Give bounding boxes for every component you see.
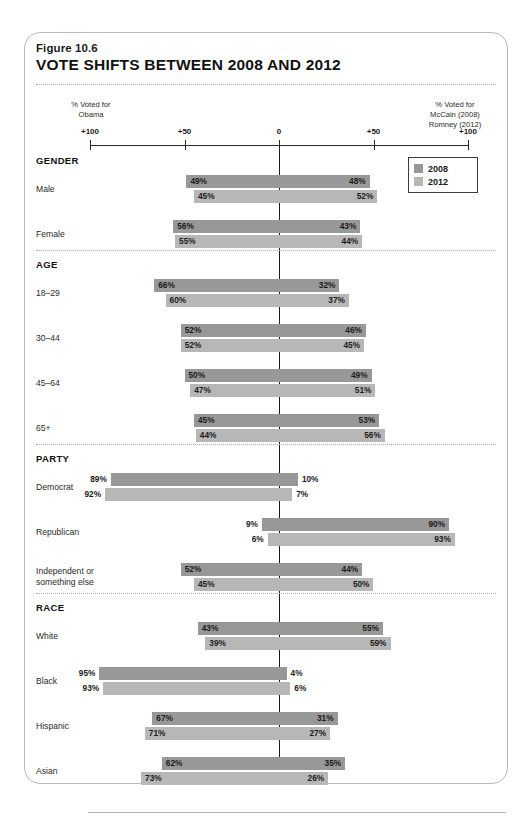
axis-tick-label: +100 — [448, 127, 488, 136]
bar-value-left: 55% — [179, 235, 196, 248]
axis-caption-left-line2: Obama — [48, 110, 134, 120]
bar-value-right: 48% — [349, 175, 366, 188]
bar-value-right: 46% — [345, 324, 362, 337]
bar-value-right: 45% — [343, 339, 360, 352]
group-separator — [36, 250, 496, 251]
bar-2008: 89%10% — [111, 473, 298, 486]
figure-page: Figure 10.6 VOTE SHIFTS BETWEEN 2008 AND… — [0, 0, 530, 826]
bar-value-left: 50% — [189, 369, 206, 382]
bar-2012: 45%52% — [194, 190, 377, 203]
bar-2012: 52%45% — [181, 339, 364, 352]
category-label: White — [36, 631, 156, 642]
legend-item-label: 2012 — [428, 177, 448, 187]
bar-2008: 62%35% — [162, 757, 345, 770]
bar-2012: 45%50% — [194, 578, 374, 591]
bar-2008: 95%4% — [99, 667, 286, 680]
axis-tick — [185, 140, 186, 150]
group-separator — [36, 444, 496, 445]
bar-value-right: 27% — [309, 727, 326, 740]
group-separator — [36, 593, 496, 594]
figure-number: Figure 10.6 — [36, 42, 98, 54]
bar-value-right: 10% — [302, 473, 319, 486]
group-title: AGE — [36, 259, 58, 270]
bar-2008: 52%44% — [181, 563, 362, 576]
group-title: PARTY — [36, 453, 69, 464]
bar-value-right: 51% — [355, 384, 372, 397]
category-label-line2: something else — [36, 577, 156, 588]
bar-value-right: 44% — [342, 563, 359, 576]
bar-value-left: 56% — [177, 220, 194, 233]
category-label: 45–64 — [36, 378, 156, 389]
bar-value-right: 26% — [308, 772, 325, 785]
bar-value-right: 6% — [294, 682, 306, 695]
bar-value-right: 56% — [364, 429, 381, 442]
axis-tick-label: 0 — [259, 127, 299, 136]
bar-2008: 67%31% — [152, 712, 337, 725]
category-label: Female — [36, 229, 156, 240]
bar-value-left: 52% — [185, 339, 202, 352]
category-label: Asian — [36, 766, 156, 777]
bar-2012: 6%93% — [268, 533, 455, 546]
bar-2008: 43%55% — [198, 622, 383, 635]
bar-2008: 49%48% — [186, 175, 369, 188]
bar-value-left: 39% — [209, 637, 226, 650]
bar-value-left: 47% — [194, 384, 211, 397]
legend: 20082012 — [408, 157, 478, 193]
bar-2012: 92%7% — [105, 488, 292, 501]
category-label-line1: Independent or — [36, 566, 156, 577]
bar-value-left: 43% — [202, 622, 219, 635]
category-label: 30–44 — [36, 333, 156, 344]
legend-item: 2012 — [414, 175, 472, 188]
bar-value-left: 52% — [185, 563, 202, 576]
bottom-rule — [88, 812, 506, 813]
category-label: 65+ — [36, 423, 156, 434]
bar-value-right: 49% — [351, 369, 368, 382]
bar-value-right: 55% — [362, 622, 379, 635]
bar-2012: 93%6% — [103, 682, 290, 695]
category-label: Male — [36, 184, 156, 195]
axis-caption-right-line2: McCain (2008) — [412, 110, 498, 120]
category-label: Hispanic — [36, 721, 156, 732]
category-label: Independent orsomething else — [36, 566, 156, 587]
bar-value-right: 7% — [296, 488, 308, 501]
bar-value-right: 31% — [317, 712, 334, 725]
axis-caption-right-line1: % Voted for — [412, 100, 498, 110]
bar-value-left: 62% — [166, 757, 183, 770]
bar-value-right: 43% — [340, 220, 357, 233]
bar-2008: 9%90% — [262, 518, 449, 531]
bar-value-left: 71% — [149, 727, 166, 740]
bar-value-left: 44% — [200, 429, 217, 442]
bar-value-right: 4% — [291, 667, 303, 680]
category-label: Republican — [36, 527, 156, 538]
legend-item-label: 2008 — [428, 164, 448, 174]
title-separator — [36, 84, 496, 85]
category-label: 18–29 — [36, 288, 156, 299]
bar-value-left: 9% — [246, 518, 258, 531]
legend-swatch-icon — [414, 177, 423, 186]
axis-tick — [468, 140, 469, 150]
legend-swatch-icon — [414, 164, 423, 173]
bar-2012: 44%56% — [196, 429, 385, 442]
axis-tick-label: +50 — [354, 127, 394, 136]
bar-value-left: 89% — [90, 473, 107, 486]
bar-value-right: 50% — [353, 578, 370, 591]
bar-value-right: 53% — [359, 414, 376, 427]
bar-value-left: 49% — [190, 175, 207, 188]
bar-value-left: 45% — [198, 414, 215, 427]
bar-value-left: 45% — [198, 190, 215, 203]
bar-value-right: 35% — [325, 757, 342, 770]
bar-value-right: 32% — [319, 279, 336, 292]
axis-tick — [374, 140, 375, 150]
axis-tick-label: +50 — [165, 127, 205, 136]
page-title: VOTE SHIFTS BETWEEN 2008 AND 2012 — [36, 56, 341, 74]
bar-2008: 52%46% — [181, 324, 366, 337]
bar-value-right: 44% — [342, 235, 359, 248]
bar-value-left: 67% — [156, 712, 173, 725]
bar-2008: 56%43% — [173, 220, 360, 233]
bar-2012: 73%26% — [141, 772, 328, 785]
legend-item: 2008 — [414, 162, 472, 175]
axis-caption-left: % Voted for Obama — [48, 100, 134, 120]
bar-value-left: 52% — [185, 324, 202, 337]
bar-value-left: 95% — [79, 667, 96, 680]
group-title: GENDER — [36, 155, 79, 166]
